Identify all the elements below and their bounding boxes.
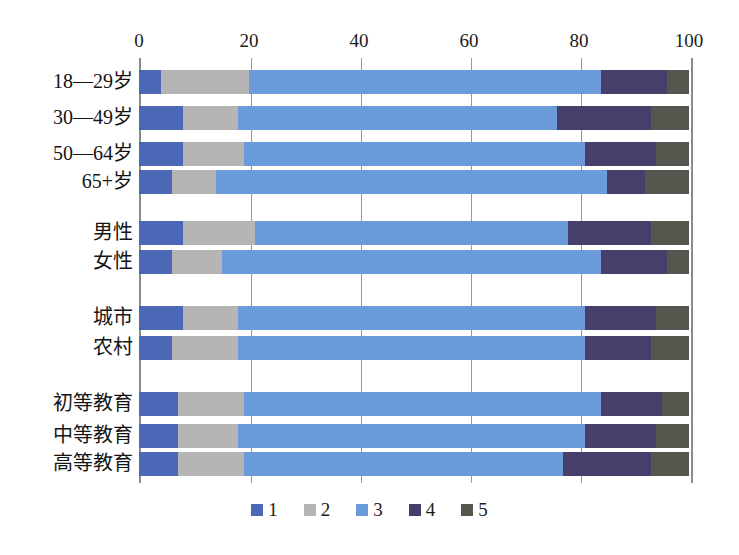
bar-segment-series-1 <box>139 306 183 330</box>
legend-swatch-icon-1 <box>251 504 263 516</box>
bar-segment-series-2 <box>172 170 216 194</box>
bar-row <box>139 221 689 245</box>
bar-segment-series-2 <box>183 221 255 245</box>
bar-segment-series-5 <box>656 142 689 166</box>
legend-item-2[interactable]: 2 <box>304 500 331 520</box>
bars-layer <box>139 58 689 483</box>
bar-segment-series-1 <box>139 336 172 360</box>
bar-segment-series-5 <box>651 221 690 245</box>
category-label-8: 初等教育 <box>4 391 139 415</box>
category-label-5: 女性 <box>4 249 139 273</box>
legend-label: 1 <box>268 500 278 520</box>
bar-segment-series-4 <box>585 142 657 166</box>
bar-segment-series-4 <box>557 106 651 130</box>
legend-label: 5 <box>478 500 488 520</box>
legend-swatch-icon-2 <box>304 504 316 516</box>
category-label-4: 男性 <box>4 220 139 244</box>
bar-row <box>139 392 689 416</box>
x-tick-label-20: 20 <box>240 30 259 52</box>
bar-row <box>139 336 689 360</box>
bar-segment-series-4 <box>585 336 651 360</box>
bar-row <box>139 250 689 274</box>
chart-legend: 12345 <box>0 500 739 520</box>
bar-segment-series-3 <box>216 170 607 194</box>
legend-label: 4 <box>426 500 436 520</box>
legend-item-5[interactable]: 5 <box>461 500 488 520</box>
bar-row <box>139 424 689 448</box>
category-label-6: 城市 <box>4 305 139 329</box>
bar-segment-series-4 <box>568 221 651 245</box>
bar-segment-series-5 <box>645 170 689 194</box>
bar-segment-series-1 <box>139 106 183 130</box>
bar-segment-series-3 <box>244 142 585 166</box>
bar-segment-series-5 <box>667 70 689 94</box>
x-tick-label-60: 60 <box>460 30 479 52</box>
bar-segment-series-5 <box>656 424 689 448</box>
bar-segment-series-1 <box>139 250 172 274</box>
bar-row <box>139 106 689 130</box>
bar-segment-series-5 <box>662 392 690 416</box>
bar-segment-series-5 <box>651 106 690 130</box>
bar-segment-series-1 <box>139 70 161 94</box>
bar-segment-series-2 <box>183 142 244 166</box>
bar-segment-series-3 <box>244 452 563 476</box>
bar-segment-series-1 <box>139 142 183 166</box>
legend-swatch-icon-4 <box>409 504 421 516</box>
bar-segment-series-3 <box>238 106 557 130</box>
bar-segment-series-1 <box>139 221 183 245</box>
bar-segment-series-1 <box>139 170 172 194</box>
bar-segment-series-2 <box>172 250 222 274</box>
x-tick-label-80: 80 <box>570 30 589 52</box>
bar-segment-series-4 <box>601 392 662 416</box>
bar-segment-series-5 <box>667 250 689 274</box>
legend-item-3[interactable]: 3 <box>356 500 383 520</box>
bar-segment-series-5 <box>651 336 690 360</box>
category-axis-labels: 18—29岁30—49岁50—64岁65+岁男性女性城市农村初等教育中等教育高等… <box>0 58 139 483</box>
category-label-10: 高等教育 <box>4 451 139 475</box>
x-tick-label-0: 0 <box>134 30 144 52</box>
bar-segment-series-3 <box>238 424 585 448</box>
legend-swatch-icon-5 <box>461 504 473 516</box>
bar-segment-series-3 <box>244 392 602 416</box>
category-label-3: 65+岁 <box>4 169 139 193</box>
bar-segment-series-3 <box>222 250 602 274</box>
bar-segment-series-4 <box>601 70 667 94</box>
bar-segment-series-1 <box>139 392 178 416</box>
legend-label: 3 <box>373 500 383 520</box>
bar-row <box>139 452 689 476</box>
bar-segment-series-3 <box>238 306 585 330</box>
bar-segment-series-3 <box>249 70 601 94</box>
bar-segment-series-5 <box>656 306 689 330</box>
bar-row <box>139 70 689 94</box>
bar-segment-series-2 <box>178 452 244 476</box>
bar-segment-series-2 <box>183 306 238 330</box>
bar-row <box>139 142 689 166</box>
bar-row <box>139 170 689 194</box>
bar-segment-series-5 <box>651 452 690 476</box>
bar-segment-series-1 <box>139 424 178 448</box>
x-tick-label-40: 40 <box>350 30 369 52</box>
bar-segment-series-2 <box>178 392 244 416</box>
bar-row <box>139 306 689 330</box>
bar-segment-series-4 <box>607 170 646 194</box>
bar-segment-series-4 <box>585 306 657 330</box>
legend-swatch-icon-3 <box>356 504 368 516</box>
bar-segment-series-4 <box>601 250 667 274</box>
legend-label: 2 <box>321 500 331 520</box>
bar-segment-series-2 <box>183 106 238 130</box>
bar-segment-series-3 <box>238 336 585 360</box>
bar-segment-series-2 <box>161 70 249 94</box>
category-label-1: 30—49岁 <box>4 105 139 129</box>
category-label-9: 中等教育 <box>4 423 139 447</box>
bar-segment-series-2 <box>172 336 238 360</box>
category-label-0: 18—29岁 <box>4 69 139 93</box>
legend-item-1[interactable]: 1 <box>251 500 278 520</box>
legend-item-4[interactable]: 4 <box>409 500 436 520</box>
stacked-bar-chart: 020406080100 18—29岁30—49岁50—64岁65+岁男性女性城… <box>0 0 739 555</box>
bar-segment-series-4 <box>563 452 651 476</box>
bar-segment-series-1 <box>139 452 178 476</box>
bar-segment-series-3 <box>255 221 569 245</box>
category-label-2: 50—64岁 <box>4 141 139 165</box>
bar-segment-series-4 <box>585 424 657 448</box>
x-axis-tick-labels: 020406080100 <box>0 30 739 54</box>
